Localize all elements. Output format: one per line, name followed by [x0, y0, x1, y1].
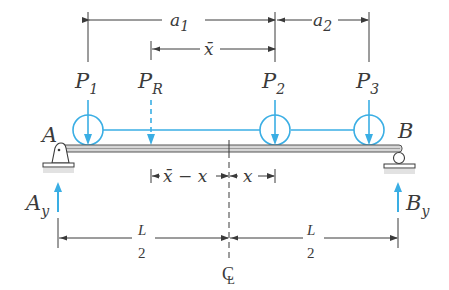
label-half-right-num: L — [306, 222, 315, 238]
arrowhead — [278, 18, 285, 23]
dimension-xbar: x̄ — [151, 39, 275, 60]
dimension-a1: a1 — [88, 10, 275, 62]
label-p2: P2 — [261, 69, 285, 97]
arrowhead-p3 — [365, 134, 373, 145]
label-xbar-minus-x: x̄ − x — [163, 166, 208, 186]
support-b-roller — [384, 153, 415, 175]
arrowhead-p2 — [271, 134, 279, 145]
arrowhead — [231, 236, 238, 241]
label-p3: P3 — [355, 69, 379, 97]
arrowhead — [230, 174, 237, 179]
arrowhead-p1 — [84, 134, 92, 145]
dimension-x: x — [230, 166, 275, 186]
label-pr: PR — [137, 69, 163, 97]
label-half-left-den: 2 — [138, 245, 146, 261]
dimension-half-left: L 2 — [58, 218, 228, 261]
dimension-half-right: L 2 — [230, 218, 398, 261]
arrowhead-pr — [147, 134, 155, 145]
arrowhead — [60, 236, 67, 241]
ground-hatch-b — [384, 169, 415, 174]
pin-base — [43, 163, 74, 167]
label-x: x — [243, 166, 253, 186]
arrowhead-by — [394, 182, 402, 192]
label-p1: P1 — [74, 69, 98, 97]
label-half-right-den: 2 — [307, 245, 315, 261]
label-a1: a1 — [170, 10, 189, 34]
beam-diagram: a1 a2 x̄ P1 PR P2 P3 — [0, 0, 449, 290]
pin-hole — [58, 149, 61, 152]
roller — [394, 153, 405, 164]
label-by: By — [405, 191, 430, 219]
label-b: B — [397, 119, 413, 143]
arrowhead — [152, 174, 159, 179]
label-xbar: x̄ — [204, 39, 214, 59]
reaction-by — [394, 182, 402, 212]
load-train — [73, 100, 384, 145]
label-a: A — [40, 123, 57, 147]
label-ay: Ay — [24, 191, 50, 219]
dimension-a2: a2 — [275, 10, 369, 62]
centerline-symbol-l: L — [227, 272, 235, 287]
dimension-xbar-minus-x: x̄ − x — [151, 166, 228, 186]
roller-base — [384, 164, 415, 168]
label-half-left-num: L — [137, 222, 146, 238]
arrowhead-ay — [54, 182, 62, 192]
arrowhead — [153, 47, 160, 52]
reaction-ay — [54, 182, 62, 212]
ground-hatch-a — [43, 168, 74, 173]
beam — [58, 145, 402, 152]
label-a2: a2 — [313, 10, 332, 34]
